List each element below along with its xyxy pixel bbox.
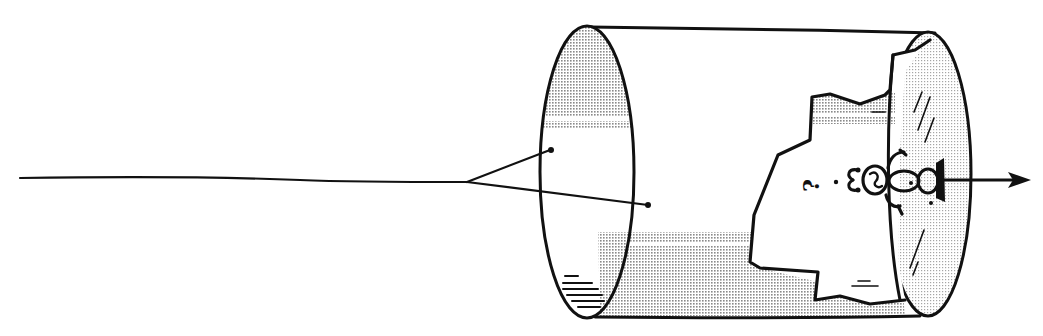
question-mark-glyph: ? bbox=[798, 179, 824, 192]
hatch-marks bbox=[563, 276, 604, 307]
string-line bbox=[20, 147, 651, 208]
can-telephone-illustration: ? bbox=[0, 0, 1043, 336]
illustration-canvas: Line drawing of a can-and-string telepho… bbox=[0, 0, 1043, 336]
